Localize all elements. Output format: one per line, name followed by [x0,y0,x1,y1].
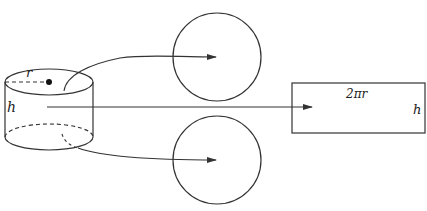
arrow-to-top-circle [64,56,216,91]
cylinder-bottom-back [5,124,93,137]
center-dot [46,79,52,85]
radius-label: r [26,65,33,80]
rect-width-label: 2πr [345,87,369,101]
arrow-to-bottom-circle [78,148,216,160]
cylinder-net-diagram: r h 2πr h [0,0,427,211]
cylinder-height-label: h [7,99,16,115]
rect-height-label: h [413,102,421,117]
arrow-to-bottom-circle-hidden [62,134,78,148]
